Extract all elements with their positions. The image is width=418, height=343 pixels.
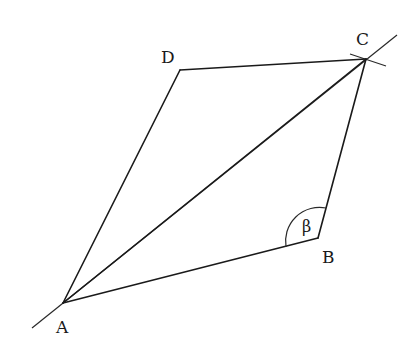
vertex-label-b: B <box>322 247 335 267</box>
vertex-label-c: C <box>356 29 369 49</box>
parallelogram-diagram: A B C D β <box>0 0 418 343</box>
side-ab <box>63 238 318 303</box>
side-cd <box>180 59 366 70</box>
side-da <box>63 70 180 303</box>
angle-label-beta: β <box>302 217 311 236</box>
side-bc <box>318 59 366 238</box>
vertex-label-a: A <box>55 317 69 337</box>
vertex-label-d: D <box>161 47 175 67</box>
diagonal-ac <box>63 59 366 303</box>
